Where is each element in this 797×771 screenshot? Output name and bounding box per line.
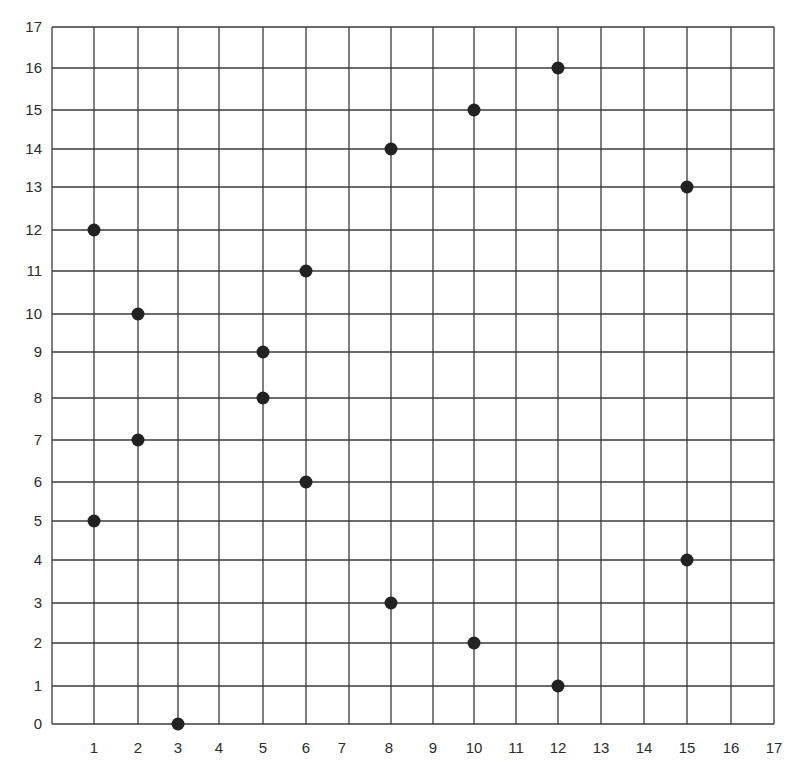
x-tick-label: 7 xyxy=(338,739,346,756)
data-point xyxy=(468,637,481,650)
data-point xyxy=(385,143,398,156)
x-tick-label: 14 xyxy=(636,739,653,756)
y-tick-label: 10 xyxy=(25,305,42,322)
x-axis-tick-labels: 1234567891011121314151617 xyxy=(90,739,783,756)
y-tick-label: 8 xyxy=(34,389,42,406)
data-point xyxy=(132,308,145,321)
x-tick-label: 13 xyxy=(593,739,610,756)
data-point xyxy=(468,104,481,117)
grid-lines xyxy=(52,27,774,724)
data-point xyxy=(681,181,694,194)
y-tick-label: 13 xyxy=(25,178,42,195)
x-tick-label: 16 xyxy=(723,739,740,756)
data-point xyxy=(552,62,565,75)
data-point xyxy=(552,680,565,693)
data-point xyxy=(300,265,313,278)
data-point xyxy=(132,434,145,447)
x-tick-label: 9 xyxy=(429,739,437,756)
y-tick-label: 17 xyxy=(25,18,42,35)
y-tick-label: 0 xyxy=(34,715,42,732)
y-tick-label: 9 xyxy=(34,343,42,360)
y-axis-tick-labels: 01234567891011121314151617 xyxy=(25,18,42,732)
data-point xyxy=(88,224,101,237)
data-point xyxy=(300,476,313,489)
scatter-chart: 01234567891011121314151617 1234567891011… xyxy=(0,0,797,771)
x-tick-label: 2 xyxy=(134,739,142,756)
y-tick-label: 2 xyxy=(34,634,42,651)
y-tick-label: 7 xyxy=(34,431,42,448)
x-tick-label: 4 xyxy=(215,739,223,756)
y-tick-label: 12 xyxy=(25,221,42,238)
y-tick-label: 14 xyxy=(25,140,42,157)
y-tick-label: 1 xyxy=(34,677,42,694)
data-point xyxy=(257,346,270,359)
x-tick-label: 17 xyxy=(766,739,783,756)
x-tick-label: 11 xyxy=(508,739,524,756)
x-tick-label: 6 xyxy=(302,739,310,756)
y-tick-label: 6 xyxy=(34,473,42,490)
x-tick-label: 10 xyxy=(466,739,483,756)
x-tick-label: 8 xyxy=(385,739,393,756)
data-point xyxy=(172,718,185,731)
y-tick-label: 5 xyxy=(34,512,42,529)
y-tick-label: 16 xyxy=(25,59,42,76)
x-tick-label: 3 xyxy=(174,739,182,756)
data-point xyxy=(681,554,694,567)
x-tick-label: 12 xyxy=(550,739,567,756)
y-tick-label: 15 xyxy=(25,101,42,118)
y-tick-label: 11 xyxy=(26,262,42,279)
data-point xyxy=(257,392,270,405)
data-point xyxy=(385,597,398,610)
x-tick-label: 5 xyxy=(259,739,267,756)
x-tick-label: 1 xyxy=(90,739,98,756)
y-tick-label: 3 xyxy=(34,594,42,611)
y-tick-label: 4 xyxy=(34,551,42,568)
data-point xyxy=(88,515,101,528)
x-tick-label: 15 xyxy=(679,739,696,756)
